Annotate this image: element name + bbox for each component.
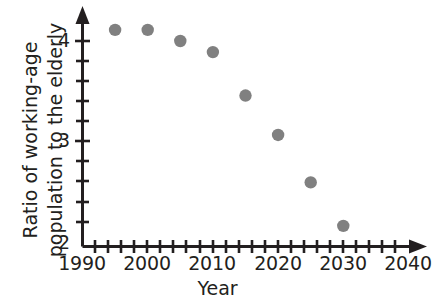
x-tick-label-2020: 2020 xyxy=(242,252,314,274)
data-point xyxy=(174,35,186,47)
data-point xyxy=(207,46,219,58)
x-axis-title: Year xyxy=(0,277,435,299)
x-tick-label-2030: 2030 xyxy=(307,252,379,274)
x-tick-label-2000: 2000 xyxy=(111,252,183,274)
data-point xyxy=(305,176,317,188)
scatter-chart: 4 3 2 1990 2000 2010 2020 2030 2040 Rati… xyxy=(0,0,435,304)
data-point xyxy=(142,24,154,36)
y-axis-title-line-2: population to the elderly xyxy=(43,23,68,258)
x-tick-label-2040: 2040 xyxy=(372,252,435,274)
data-point xyxy=(239,89,251,101)
data-point xyxy=(272,129,284,141)
x-tick-label-2010: 2010 xyxy=(176,252,248,274)
y-axis-title-line-1: Ratio of working-age xyxy=(18,42,43,239)
data-point xyxy=(337,220,349,232)
y-axis-title: Ratio of working-age population to the e… xyxy=(15,20,71,260)
data-point xyxy=(109,24,121,36)
data-point-series xyxy=(109,24,350,232)
